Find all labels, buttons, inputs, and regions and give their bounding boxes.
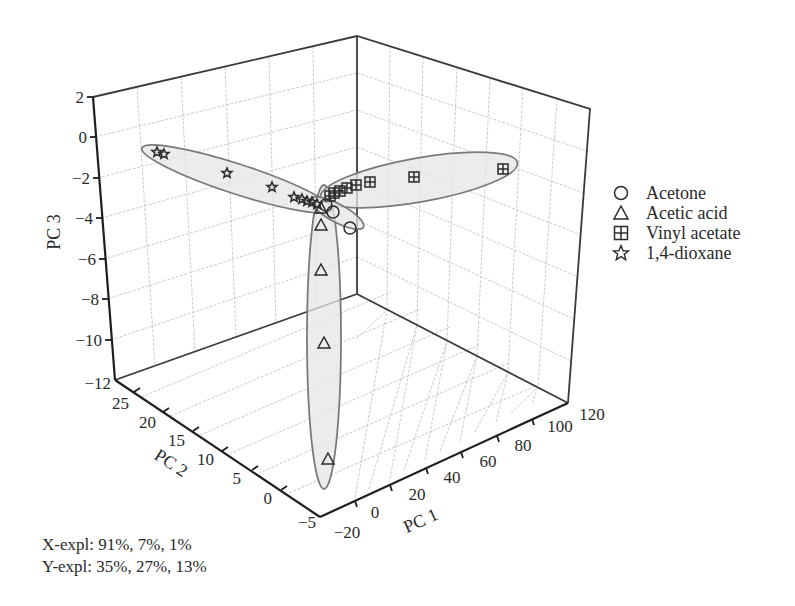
pc1-tick: 120 xyxy=(579,405,605,424)
pc2-axis-title: PC 2 xyxy=(151,445,192,481)
legend-item-1-4-dioxane: 1,4-dioxane xyxy=(610,243,740,263)
cluster-ellipses xyxy=(137,134,521,489)
legend-label: Acetic acid xyxy=(646,203,727,224)
pc3-axis-title: PC 3 xyxy=(44,214,64,250)
legend-label: 1,4-dioxane xyxy=(646,243,731,264)
legend: Acetone Acetic acid Vinyl acetate 1,4-di… xyxy=(610,183,740,263)
ellipse-1-4-dioxane xyxy=(137,134,336,224)
explained-variance: X-expl: 91%, 7%, 1% Y-expl: 35%, 27%, 13… xyxy=(42,534,207,578)
pc1-tick: 0 xyxy=(371,503,380,522)
pca-3d-scatter-plot: 2 0 −2 −4 −6 −8 −10 −12 PC 3 25 20 15 10… xyxy=(0,0,795,606)
pc1-tick: 100 xyxy=(547,417,573,436)
pc2-tick: 0 xyxy=(264,489,273,508)
y-explained-variance: Y-expl: 35%, 27%, 13% xyxy=(42,556,207,578)
pc3-tick: −10 xyxy=(75,331,102,350)
star-icon xyxy=(610,244,632,262)
pc2-tick: 10 xyxy=(197,450,214,469)
pc1-axis: −20 0 20 40 60 80 100 120 PC 1 xyxy=(320,403,605,542)
pc3-tick: −12 xyxy=(84,374,111,393)
pc2-axis: 25 20 15 10 5 0 −5 PC 2 xyxy=(112,380,320,532)
pc3-tick: −6 xyxy=(78,250,96,269)
pc2-tick: 5 xyxy=(233,469,242,488)
pc2-tick: −5 xyxy=(298,513,316,532)
pc1-tick: −20 xyxy=(334,523,361,542)
pc1-tick: 60 xyxy=(480,452,497,471)
legend-item-acetone: Acetone xyxy=(610,183,740,203)
triangle-icon xyxy=(610,204,632,222)
pc3-tick: 2 xyxy=(76,88,85,107)
pc2-tick: 15 xyxy=(168,431,185,450)
legend-item-vinyl-acetate: Vinyl acetate xyxy=(610,223,740,243)
legend-label: Vinyl acetate xyxy=(646,223,740,244)
x-explained-variance: X-expl: 91%, 7%, 1% xyxy=(42,534,207,556)
pc2-tick: 25 xyxy=(112,394,129,413)
pc3-tick: −4 xyxy=(75,209,94,228)
pc3-tick: −8 xyxy=(81,290,99,309)
pc1-tick: 40 xyxy=(444,468,461,487)
pc1-tick: 80 xyxy=(515,436,532,455)
pc1-tick: 20 xyxy=(409,485,426,504)
pc2-tick: 20 xyxy=(139,413,156,432)
pc3-tick: −2 xyxy=(72,169,90,188)
legend-label: Acetone xyxy=(646,183,706,204)
pc3-axis: 2 0 −2 −4 −6 −8 −10 −12 PC 3 xyxy=(44,88,115,393)
pc3-tick: 0 xyxy=(79,128,88,147)
square-plus-icon xyxy=(610,224,632,242)
circle-icon xyxy=(610,184,632,202)
pc1-axis-title: PC 1 xyxy=(400,504,441,537)
legend-item-acetic-acid: Acetic acid xyxy=(610,203,740,223)
